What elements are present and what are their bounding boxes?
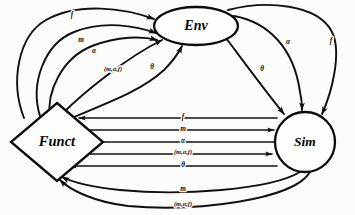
edge-funct-env-tuple: [62, 40, 162, 114]
edge-label-group-horizontal: f m α (m,α,f) θ: [174, 113, 192, 169]
edge-label-funct-env-m: m: [78, 36, 84, 44]
edge-label-env-sim-alpha: α: [286, 38, 291, 46]
edge-env-sim-f: [228, 5, 336, 114]
edge-group-env-to-sim: [226, 5, 336, 114]
edge-label-group-left: f m α (m,α,f) θ: [71, 11, 154, 74]
edge-label-sim-funct-theta: θ: [181, 161, 185, 169]
edge-label-sim-funct-m-bottom: m: [180, 185, 186, 193]
edge-label-funct-env-f: f: [71, 11, 74, 19]
edge-funct-env-theta: [72, 46, 182, 118]
edge-funct-env-m: [37, 25, 156, 116]
edge-label-funct-env-alpha: α: [92, 47, 97, 55]
diagram-canvas: Env Funct Sim f m α (m,α,f) θ θ α f f m …: [0, 0, 355, 215]
edge-env-sim-theta: [226, 38, 284, 114]
sim-label: Sim: [294, 134, 316, 149]
node-funct[interactable]: Funct: [11, 103, 103, 181]
edge-label-sim-funct-tuple-bottom: (m,α,f): [174, 200, 192, 208]
edge-label-funct-sim-tuple: (m,α,f): [174, 148, 192, 156]
funct-label: Funct: [38, 133, 76, 149]
node-env[interactable]: Env: [154, 7, 238, 45]
edge-label-funct-env-tuple: (m,α,f): [104, 65, 122, 73]
edge-label-group-bottom: m (m,α,f): [174, 185, 192, 209]
diagram-graph: Env Funct Sim f m α (m,α,f) θ θ α f f m …: [0, 0, 355, 215]
node-sim[interactable]: Sim: [275, 112, 335, 172]
edge-label-group-right: θ α f: [260, 37, 333, 73]
edge-label-env-sim-theta: θ: [260, 65, 264, 73]
edge-label-funct-sim-m: m: [180, 125, 186, 133]
edge-label-env-sim-f: f: [330, 37, 333, 45]
edge-label-sim-funct-f: f: [182, 113, 185, 121]
env-label: Env: [183, 18, 208, 33]
edge-label-sim-funct-alpha: α: [181, 137, 186, 145]
edge-label-funct-env-theta: θ: [150, 63, 154, 71]
